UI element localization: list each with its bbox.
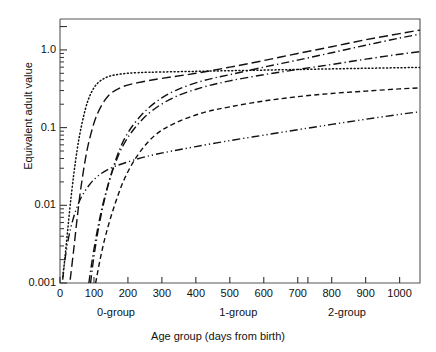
curve-series-2-long-dash xyxy=(70,30,420,280)
group-annotation: 1-group xyxy=(219,306,257,318)
curve-series-1-dotted xyxy=(63,67,420,276)
y-tick-label: 1.0 xyxy=(41,43,56,55)
y-tick-label: 0.01 xyxy=(35,198,56,210)
y-tick-label: 0.1 xyxy=(41,121,56,133)
plot-area xyxy=(0,0,436,352)
group-annotation: 2-group xyxy=(328,306,366,318)
data-curves xyxy=(63,30,420,283)
curve-series-4-dash-dot-lower xyxy=(89,52,420,283)
x-tick-label: 1000 xyxy=(375,287,425,299)
group-annotation: 0-group xyxy=(97,306,135,318)
x-axis-ticks xyxy=(60,277,400,283)
curve-series-6-dash-dot-dot xyxy=(63,112,420,280)
chart-figure: Equivalent adult value Age group (days f… xyxy=(0,0,436,352)
